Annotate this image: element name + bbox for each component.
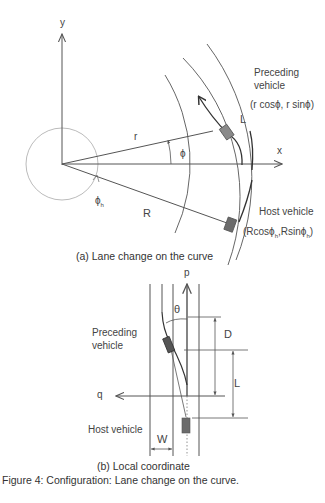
p-axis-label: p — [184, 268, 190, 278]
host-label-a: Host vehicle — [259, 207, 313, 217]
x-axis-label: x — [277, 146, 282, 156]
L-label-b: L — [234, 378, 240, 389]
gap-L-bracket-lower — [239, 180, 252, 222]
y-axis-label: y — [60, 18, 65, 28]
q-axis-label: q — [97, 390, 103, 400]
radius-r-label: r — [134, 132, 137, 142]
preceding-label-a-line1: Preceding — [254, 68, 299, 78]
preceding-label-a-line2: vehicle — [254, 81, 285, 91]
host-angle-label: ϕh — [95, 196, 104, 208]
figure-caption: Figure 4: Configuration: Lane change on … — [2, 475, 239, 486]
panel-a-caption: (a) Lane change on the curve — [76, 251, 213, 262]
gap-L-label-a: L — [240, 114, 246, 125]
phi-angle-arc — [168, 140, 171, 164]
road-arc-middle — [183, 58, 240, 265]
theta-arc — [166, 319, 187, 323]
theta-label: θ — [174, 304, 180, 315]
radius-R-label: R — [143, 208, 151, 219]
host-vehicle-a — [224, 217, 237, 232]
road-arc-inner — [165, 75, 190, 233]
host-coords-a: (Rcosϕh,Rsinϕh) — [243, 227, 313, 239]
panel-b-caption: (b) Local coordinate — [97, 461, 190, 472]
host-to-preceding-line — [170, 345, 186, 417]
host-label-b: Host vehicle — [88, 425, 142, 435]
preceding-label-b-line1: Preceding — [92, 328, 137, 338]
preceding-coords-a: (r cosϕ, r sinϕ) — [250, 100, 314, 110]
phi-angle-label: ϕ — [180, 149, 186, 159]
host-angle-subscript: h — [101, 202, 104, 208]
D-label: D — [224, 329, 232, 340]
W-label: W — [157, 434, 167, 445]
preceding-label-b-line2: vehicle — [92, 341, 123, 351]
host-vehicle-b — [182, 418, 190, 433]
lane-change-trajectory — [162, 312, 187, 385]
